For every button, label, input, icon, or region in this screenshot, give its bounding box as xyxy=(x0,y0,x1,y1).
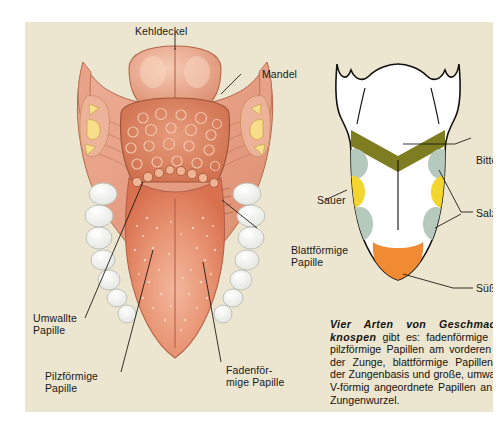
zone-salzig-left-lower xyxy=(347,207,373,241)
tongue-anatomical-illustration xyxy=(25,22,325,412)
figure-caption: Vier Arten von Geschmacks­knospen gibt e… xyxy=(330,318,493,406)
zone-sauer-right xyxy=(431,176,455,208)
label-pilzfoermige-papille: Pilzförmige Papille xyxy=(45,370,98,394)
label-suess: Süß xyxy=(476,282,493,294)
tongue-root xyxy=(121,98,230,182)
illustration-panel: Kehldeckel Mandel Blattförmige Papille U… xyxy=(25,22,493,412)
label-blattfoermige-papille: Blattförmige Papille xyxy=(291,244,348,268)
figure-page: Kehldeckel Mandel Blattförmige Papille U… xyxy=(0,0,498,439)
label-fadenfoermige-papille: Fadenför- mige Papille xyxy=(226,364,284,388)
zone-salzig-left-upper xyxy=(342,149,368,179)
label-mandel: Mandel xyxy=(262,68,297,80)
label-kehldeckel: Kehldeckel xyxy=(135,25,187,37)
label-sauer: Sauer xyxy=(317,194,346,206)
label-umwallte-papille: Umwallte Papille xyxy=(33,312,77,336)
label-bitter: Bitter xyxy=(476,154,493,166)
zone-salzig-right-lower xyxy=(423,207,449,241)
label-salzig: Salzig xyxy=(476,207,493,219)
tongue-body xyxy=(125,178,225,358)
